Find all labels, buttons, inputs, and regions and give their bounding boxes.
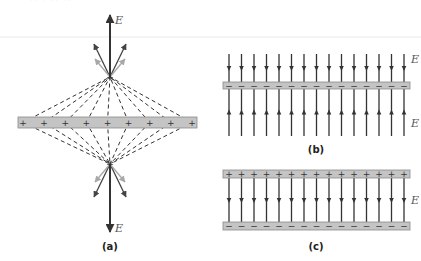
plus-charge: + [40,118,48,128]
arrowhead-up [289,110,294,115]
arrowhead-up [277,110,282,115]
plus-charge: + [300,169,308,179]
plus-charge: + [146,118,154,128]
arrowhead-down [364,66,369,71]
arrowhead-down [339,66,344,71]
panel-a-field-label-bottom: E [114,222,123,235]
dashed-field-line [86,123,110,165]
minus-charge: − [325,221,333,231]
dashed-field-line [23,77,110,123]
minus-charge: − [250,81,258,91]
arrowhead-down [389,198,394,203]
arrowhead-down [402,198,407,203]
panel-c-caption: (c) [308,241,323,252]
arrowhead-down [364,198,369,203]
arrowhead-up [252,110,257,115]
dashed-field-line [65,123,110,165]
arrowhead-down [314,66,319,71]
panel-b-field-label-top: E [410,53,419,66]
minus-charge: − [363,81,371,91]
minus-charge: − [350,221,358,231]
plus-charge: + [188,118,196,128]
plus-charge: + [125,118,133,128]
arrowhead-down [252,198,257,203]
arrowhead-up [302,110,307,115]
minus-charge: − [400,81,408,91]
panel-c-parallel-plates: +++++++++++++++−−−−−−−−−−−−−−− [223,169,410,231]
minus-charge: − [275,81,283,91]
minus-charge: − [300,81,308,91]
arrowhead-up [264,110,269,115]
plus-charge: + [313,169,321,179]
arrowhead-down [277,66,282,71]
plus-charge: + [338,169,346,179]
plus-charge: + [250,169,258,179]
minus-charge: − [375,81,383,91]
dashed-field-line [110,77,150,123]
minus-charge: − [375,221,383,231]
arrowhead-up [402,110,407,115]
arrowhead-down [264,198,269,203]
dashed-field-line [110,123,129,165]
field-point-marker: + [106,159,114,169]
arrowhead-down [289,66,294,71]
plus-charge: + [61,118,69,128]
arrowhead-down [389,66,394,71]
plus-charge: + [363,169,371,179]
plus-charge: + [325,169,333,179]
minus-charge: − [263,221,271,231]
arrowhead-up [377,110,382,115]
dashed-field-line [44,123,110,165]
arrowhead-up [339,110,344,115]
arrowhead-down [352,198,357,203]
arrowhead-down [339,198,344,203]
arrowhead-down [239,198,244,203]
panel-a-single-plate: +++++++++++ [18,15,197,232]
plus-charge: + [388,169,396,179]
panel-b-negative-plate: −−−−−−−−−−−−−−− [223,54,410,136]
plus-charge: + [238,169,246,179]
arrowhead-down [402,66,407,71]
arrowhead-down [227,198,232,203]
arrowhead-down [264,66,269,71]
field-point-marker: + [106,72,114,82]
minus-charge: − [400,221,408,231]
minus-charge: − [388,81,396,91]
arrowhead-down [227,66,232,71]
minus-charge: − [388,221,396,231]
arrowhead-up [227,110,232,115]
minus-charge: − [288,81,296,91]
panel-b-caption: (b) [308,144,324,155]
minus-charge: − [225,221,233,231]
arrowhead-up [327,110,332,115]
minus-charge: − [288,221,296,231]
dashed-field-line [110,123,150,165]
panel-a-field-label-top: E [114,14,123,27]
plus-charge: + [225,169,233,179]
arrowhead-down [302,66,307,71]
panel-a-caption: (a) [102,241,118,252]
panel-b-field-label-bottom: E [410,117,419,130]
arrowhead-up [389,110,394,115]
panel-c-field-label: E [410,194,419,207]
minus-charge: − [338,81,346,91]
arrowhead-down [302,198,307,203]
dashed-field-line [86,77,110,123]
dashed-field-line [108,77,111,123]
minus-charge: − [263,81,271,91]
dashed-field-line [108,123,111,165]
dashed-field-line [110,77,192,123]
arrowhead-down [377,66,382,71]
arrowhead-down [327,198,332,203]
arrowhead-down [377,198,382,203]
minus-charge: − [325,81,333,91]
plus-charge: + [83,118,91,128]
minus-charge: − [275,221,283,231]
arrowhead-up [239,110,244,115]
dashed-field-line [65,77,110,123]
arrowhead-down [289,198,294,203]
plus-charge: + [104,118,112,128]
arrowhead-up [364,110,369,115]
arrowhead-down [239,66,244,71]
arrowhead-up [352,110,357,115]
